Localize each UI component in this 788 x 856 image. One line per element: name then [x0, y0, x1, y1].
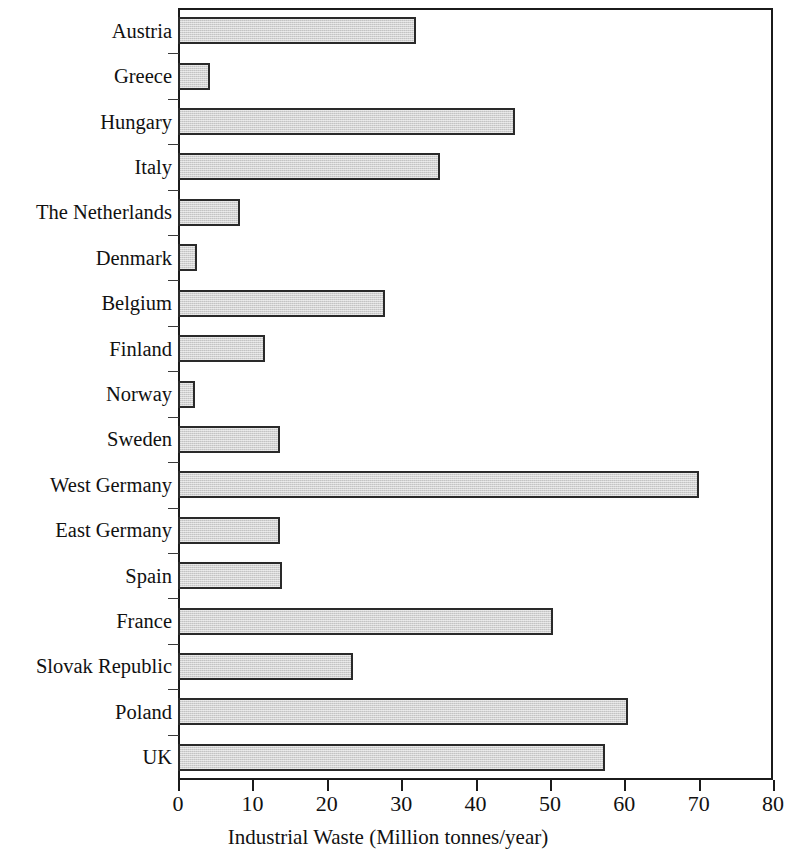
x-axis-tick: [252, 780, 254, 791]
category-label: Finland: [0, 339, 172, 360]
bar: [178, 153, 440, 180]
x-axis-tick: [401, 780, 403, 791]
y-axis-tick: [168, 144, 179, 145]
bar: [178, 744, 605, 771]
bar: [178, 426, 280, 453]
x-axis-tick-label: 30: [371, 793, 431, 815]
bar: [178, 471, 699, 498]
x-axis-tick-label: 20: [297, 793, 357, 815]
bar: [178, 17, 416, 44]
y-axis-tick: [168, 508, 179, 509]
x-axis-tick-label: 80: [743, 793, 788, 815]
category-label: West Germany: [0, 475, 172, 496]
category-label: Hungary: [0, 112, 172, 133]
y-axis-tick: [168, 53, 179, 54]
y-axis-tick: [168, 598, 179, 599]
x-axis-tick-label: 10: [222, 793, 282, 815]
x-axis-tick: [550, 780, 552, 791]
bar: [178, 63, 210, 90]
y-axis-tick: [168, 99, 179, 100]
y-axis-tick: [168, 326, 179, 327]
bar: [178, 290, 385, 317]
bar: [178, 698, 628, 725]
bar: [178, 517, 280, 544]
bar: [178, 381, 195, 408]
category-label: Denmark: [0, 248, 172, 269]
y-axis-tick: [168, 553, 179, 554]
category-label: UK: [0, 747, 172, 768]
x-axis-tick: [178, 780, 180, 791]
x-axis-tick-label: 0: [148, 793, 208, 815]
bar: [178, 199, 240, 226]
category-label: France: [0, 611, 172, 632]
category-label: Italy: [0, 157, 172, 178]
category-label: Belgium: [0, 293, 172, 314]
y-axis-tick: [168, 644, 179, 645]
y-axis-tick: [168, 417, 179, 418]
bar: [178, 335, 265, 362]
y-axis-tick: [168, 735, 179, 736]
bar: [178, 653, 353, 680]
x-axis-tick-label: 60: [594, 793, 654, 815]
x-axis-title: Industrial Waste (Million tonnes/year): [0, 827, 776, 848]
x-axis-tick-label: 40: [446, 793, 506, 815]
category-label: Sweden: [0, 429, 172, 450]
bar: [178, 562, 282, 589]
category-label: Spain: [0, 566, 172, 587]
x-axis-tick: [327, 780, 329, 791]
bar: [178, 608, 553, 635]
y-axis-tick: [168, 280, 179, 281]
y-axis-tick: [168, 371, 179, 372]
x-axis-tick: [624, 780, 626, 791]
bar: [178, 244, 197, 271]
category-label: Austria: [0, 21, 172, 42]
category-label: Poland: [0, 702, 172, 723]
y-axis-tick: [168, 462, 179, 463]
category-label: Slovak Republic: [0, 656, 172, 677]
category-label: Greece: [0, 66, 172, 87]
x-axis-tick: [476, 780, 478, 791]
y-axis-tick: [168, 689, 179, 690]
category-label: Norway: [0, 384, 172, 405]
x-axis-tick: [699, 780, 701, 791]
category-label: The Netherlands: [0, 202, 172, 223]
category-label: East Germany: [0, 520, 172, 541]
x-axis-tick: [773, 780, 775, 791]
x-axis-tick-label: 50: [520, 793, 580, 815]
y-axis-tick: [168, 235, 179, 236]
x-axis-tick-label: 70: [669, 793, 729, 815]
y-axis-tick: [168, 190, 179, 191]
bar: [178, 108, 515, 135]
